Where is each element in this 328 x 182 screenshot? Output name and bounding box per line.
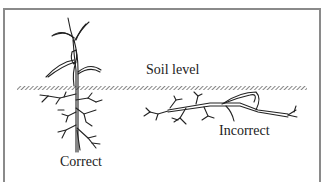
planting-diagram — [0, 0, 328, 182]
incorrect-label: Incorrect — [219, 124, 270, 138]
correct-label: Correct — [60, 155, 102, 169]
soil-level-label: Soil level — [146, 63, 199, 77]
correct-plant-illustration — [40, 18, 102, 152]
incorrect-plant-illustration — [144, 92, 297, 124]
soil-line — [17, 86, 307, 90]
